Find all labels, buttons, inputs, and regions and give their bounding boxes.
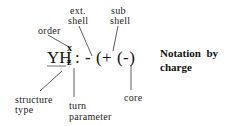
formula-charges: : - (+ (-)	[75, 48, 135, 68]
structure-type-leader	[40, 71, 62, 91]
order-leader	[48, 35, 69, 47]
sub-shell-label-line2: shell	[110, 16, 130, 26]
turn-parameter-label-line1: turn	[69, 101, 86, 111]
diagram-title-line2: charge	[160, 60, 192, 74]
turn-parameter-label-line2: parameter	[69, 112, 112, 122]
ext-shell-label-line2: shell	[68, 16, 88, 26]
diagram-title-line1: Notation by	[160, 46, 218, 60]
formula-superscript: x	[67, 42, 72, 53]
structure-type-label-line2: type	[15, 105, 33, 115]
core-label: core	[124, 93, 142, 103]
order-label: order	[38, 26, 61, 36]
formula-subscript: z	[67, 56, 71, 67]
